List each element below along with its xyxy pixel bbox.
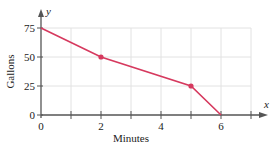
x-axis-title: Minutes <box>113 132 149 144</box>
data-point-marker <box>188 83 193 88</box>
x-variable-label: x <box>263 98 269 110</box>
x-tick-label: 0 <box>38 120 44 132</box>
y-tick-label: 50 <box>24 51 36 63</box>
y-axis-arrow-icon <box>38 9 44 17</box>
y-tick-label: 0 <box>30 109 36 121</box>
y-tick-label: 75 <box>24 22 36 34</box>
y-tick-label: 25 <box>24 80 36 92</box>
chart: 02460255075yxMinutesGallons <box>0 0 277 152</box>
y-variable-label: y <box>45 5 51 17</box>
data-point-marker <box>98 54 103 59</box>
x-tick-label: 2 <box>98 120 104 132</box>
x-axis-arrow-icon <box>259 112 268 118</box>
y-axis-title: Gallons <box>4 54 16 88</box>
x-tick-label: 6 <box>218 120 224 132</box>
x-tick-label: 4 <box>158 120 164 132</box>
